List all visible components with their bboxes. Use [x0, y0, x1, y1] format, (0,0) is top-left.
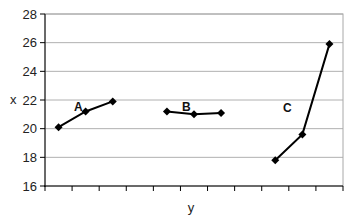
series-label-c: C: [283, 101, 292, 115]
diamond-marker-icon: [109, 97, 117, 105]
diamond-marker-icon: [325, 40, 333, 48]
y-tick-26: 26: [23, 35, 37, 50]
y-tick-24: 24: [23, 64, 37, 79]
y-tick-28: 28: [23, 7, 37, 22]
diamond-marker-icon: [82, 107, 90, 115]
y-tick-22: 22: [23, 93, 37, 108]
line-chart: 16 18 20 22 24 26 28 x y A B C: [0, 0, 350, 218]
x-axis-title: y: [188, 200, 195, 215]
gridlines: [45, 14, 343, 157]
series-label-a: A: [74, 100, 83, 114]
y-tick-20: 20: [23, 121, 37, 136]
y-tick-16: 16: [23, 179, 37, 194]
diamond-marker-icon: [163, 107, 171, 115]
axes: [40, 14, 343, 191]
diamond-marker-icon: [55, 123, 63, 131]
diamond-marker-icon: [190, 110, 198, 118]
y-axis-title: x: [10, 92, 17, 107]
y-tick-18: 18: [23, 150, 37, 165]
diamond-marker-icon: [217, 109, 225, 117]
y-tick-labels: 16 18 20 22 24 26 28: [23, 7, 37, 194]
series-label-b: B: [182, 100, 191, 114]
